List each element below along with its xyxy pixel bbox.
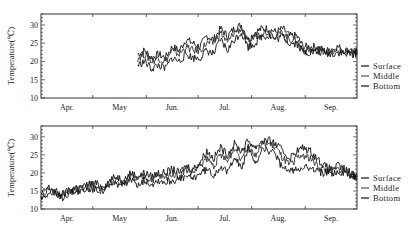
bottom-panel: 1015202530 Apr.MayJun.Jul.Aug.Sep. Tempe… [6, 126, 401, 223]
y-tick-label: 10 [30, 94, 38, 103]
bottom-series [41, 137, 357, 201]
y-tick-label: 10 [30, 205, 38, 214]
y-tick-label: 20 [30, 169, 38, 178]
x-tick-label: May [112, 103, 127, 112]
x-tick-label: Aug. [271, 103, 287, 112]
x-tick-label: Jun. [166, 214, 179, 223]
x-tick-label: Apr. [60, 214, 74, 223]
y-tick-label: 25 [30, 39, 38, 48]
legend-label-bottom: Bottom [373, 81, 400, 91]
top-y-axis-label: Temperature(℃) [6, 27, 16, 85]
top-panel: 1015202530 Apr.MayJun.Jul.Aug.Sep. Tempe… [6, 14, 401, 112]
y-tick-label: 15 [30, 76, 38, 85]
bottom-y-axis-label: Temperature(℃) [6, 139, 16, 197]
y-tick-label: 25 [30, 151, 38, 160]
bottom-plot-frame [41, 126, 357, 209]
top-series [138, 23, 357, 71]
series-line-surface [138, 23, 357, 60]
legend-label-middle: Middle [373, 71, 399, 81]
x-tick-label: May [112, 214, 127, 223]
x-tick-label: Jun. [166, 103, 179, 112]
y-tick-label: 30 [30, 133, 38, 142]
x-tick-label: Sep. [324, 214, 338, 223]
y-tick-label: 20 [30, 57, 38, 66]
x-tick-label: Aug. [271, 214, 287, 223]
y-tick-label: 15 [30, 187, 38, 196]
y-tick-label: 30 [30, 21, 38, 30]
series-line-bottom [41, 146, 357, 201]
legend-label-surface: Surface [373, 61, 401, 71]
legend-label-middle: Middle [373, 183, 399, 193]
top-x-ticks: Apr.MayJun.Jul.Aug.Sep. [60, 14, 338, 112]
x-tick-label: Jul. [219, 214, 230, 223]
bottom-legend: Surface Middle Bottom [361, 173, 401, 203]
legend-label-bottom: Bottom [373, 193, 400, 203]
bottom-y-ticks: 1015202530 [30, 126, 357, 214]
legend-label-surface: Surface [373, 173, 401, 183]
top-legend: Surface Middle Bottom [361, 61, 401, 91]
figure: 1015202530 Apr.MayJun.Jul.Aug.Sep. Tempe… [0, 0, 418, 235]
x-tick-label: Jul. [219, 103, 230, 112]
x-tick-label: Sep. [324, 103, 338, 112]
x-tick-label: Apr. [60, 103, 74, 112]
